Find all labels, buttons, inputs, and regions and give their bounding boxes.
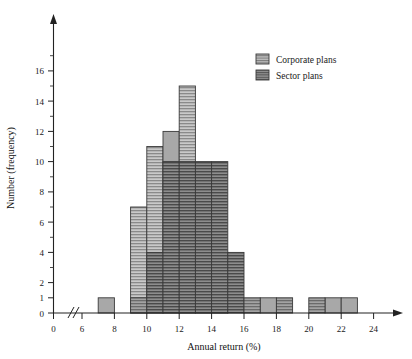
bar-sector-18-19 [276, 298, 292, 313]
legend-label-corporate: Corporate plans [276, 55, 337, 65]
histogram-chart: 0 6 8 10 12 14 16 18 20 22 24 [0, 0, 412, 359]
bar-sector-10-11 [147, 252, 163, 313]
bar-sector-14-15 [212, 162, 228, 313]
x-axis-title: Annual return (%) [187, 341, 260, 353]
y-tick-label: 8 [40, 187, 45, 197]
bar-sector-12-13 [179, 162, 195, 313]
y-tick-label: 1 [40, 293, 45, 303]
bar-corporate-22-23 [341, 298, 357, 313]
x-tick-label: 22 [337, 324, 346, 334]
y-tick-label: 6 [40, 218, 45, 228]
bar-corporate-21-22 [325, 298, 341, 313]
y-tick-label: 2 [40, 278, 45, 288]
x-tick-label: 20 [304, 324, 314, 334]
corporate-swatch [256, 54, 269, 64]
x-tick-label: 6 [80, 324, 85, 334]
bar-sector-16-17 [244, 298, 260, 313]
x-tick-label: 18 [272, 324, 282, 334]
chart-canvas: 0 6 8 10 12 14 16 18 20 22 24 [0, 0, 412, 359]
bar-corporate-17-18 [260, 298, 276, 313]
x-tick-label: 16 [240, 324, 250, 334]
sector-swatch [256, 70, 269, 80]
y-tick-label: 4 [40, 248, 45, 258]
legend-item-corporate: Corporate plans [256, 54, 337, 65]
bar-sector-11-12 [163, 162, 179, 313]
bar-sector-20-21 [309, 298, 325, 313]
x-tick-label: 14 [207, 324, 217, 334]
bar-sector-15-16 [228, 252, 244, 313]
y-tick-label: 12 [35, 127, 44, 137]
y-tick-label: 10 [35, 157, 45, 167]
legend-item-sector: Sector plans [256, 70, 323, 81]
x-tick-label: 0 [51, 324, 56, 334]
y-axis-title: Number (frequency) [5, 127, 17, 209]
y-tick-label: 0 [40, 309, 45, 319]
y-tick-label: 16 [35, 66, 45, 76]
bar-corporate-9-10 [131, 207, 147, 313]
bar-sector-13-14 [195, 162, 211, 313]
x-tick-label: 12 [175, 324, 184, 334]
bar-corporate-7-8 [98, 298, 114, 313]
x-tick-label: 24 [369, 324, 379, 334]
y-tick-label: 14 [35, 97, 45, 107]
bar-sector-9-10 [131, 298, 147, 313]
legend-label-sector: Sector plans [276, 71, 323, 81]
x-tick-label: 8 [112, 324, 117, 334]
x-tick-label: 10 [142, 324, 152, 334]
